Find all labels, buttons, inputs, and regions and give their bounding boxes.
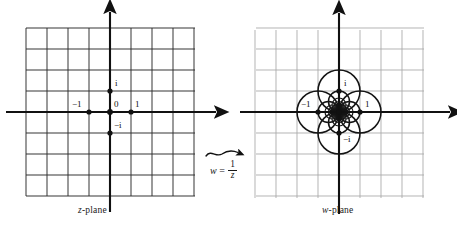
formula-lhs: w (210, 165, 217, 176)
marked-point-origin (336, 109, 342, 115)
label-w-minus-one: −1 (301, 99, 311, 109)
marked-point-minus-i (336, 130, 341, 135)
marked-point-i (107, 88, 112, 93)
label-i: i (115, 78, 118, 88)
formula-equals: = (219, 165, 225, 176)
label-zero: 0 (114, 99, 119, 109)
marked-point-minus-one (86, 109, 91, 114)
marked-point-one (357, 109, 362, 114)
marked-point-i (336, 88, 341, 93)
w-plane-caption-text: -plane (329, 205, 354, 215)
complex-mapping-figure (0, 0, 457, 235)
z-plane-caption-text: -plane (82, 205, 107, 215)
transform-formula: w = 1z (210, 160, 238, 180)
marked-point-minus-i (107, 130, 112, 135)
marked-point-zero (107, 109, 113, 115)
formula-denominator: z (228, 170, 237, 181)
w-plane-caption: w-plane (322, 205, 353, 215)
z-plane-panel (6, 12, 216, 212)
formula-fraction: 1z (228, 160, 237, 180)
label-w-one: 1 (365, 99, 370, 109)
formula-numerator: 1 (228, 160, 237, 170)
label-minus-i: −i (114, 120, 122, 130)
label-w-minus-i: −i (343, 134, 351, 144)
label-w-i: i (344, 78, 347, 88)
marked-point-minus-one (315, 109, 320, 114)
label-minus-one: −1 (72, 99, 82, 109)
z-plane-caption: z-plane (78, 205, 107, 215)
transform-arrow (206, 151, 238, 156)
w-plane-panel (240, 13, 450, 214)
marked-point-one (128, 109, 133, 114)
label-one: 1 (135, 99, 140, 109)
